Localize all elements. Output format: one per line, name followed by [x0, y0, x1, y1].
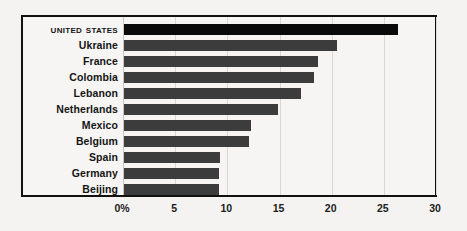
x-tick-label: 0%: [114, 202, 129, 214]
bar: [124, 24, 398, 35]
bar-row: Mexico: [23, 117, 435, 133]
bar: [124, 184, 219, 195]
x-tick-label: 25: [377, 202, 389, 214]
bar-label: Beijing: [23, 184, 124, 195]
bar: [124, 40, 337, 51]
bar-row: Lebanon: [23, 85, 435, 101]
x-tick-label: 30: [429, 202, 441, 214]
bar-chart-figure: United StatesUkraineFranceColombiaLebano…: [0, 0, 467, 231]
bar: [124, 168, 219, 179]
bar-row: Belgium: [23, 133, 435, 149]
bar-label: Spain: [23, 152, 124, 163]
bar: [124, 88, 301, 99]
bar-row: Ukraine: [23, 37, 435, 53]
bar: [124, 136, 249, 147]
bar: [124, 152, 220, 163]
bar-track: [124, 133, 435, 149]
bar-label: United States: [23, 24, 124, 35]
bar-label: Ukraine: [23, 40, 124, 51]
bar-track: [124, 53, 435, 69]
gridline: [436, 17, 437, 195]
bar-label: Belgium: [23, 136, 124, 147]
x-tick-label: 10: [220, 202, 232, 214]
bar-label: Lebanon: [23, 88, 124, 99]
plot-frame: United StatesUkraineFranceColombiaLebano…: [21, 15, 437, 197]
x-tick-label: 20: [325, 202, 337, 214]
bar-track: [124, 165, 435, 181]
bar-row: Spain: [23, 149, 435, 165]
x-tick-label: 5: [171, 202, 177, 214]
bar-label: Mexico: [23, 120, 124, 131]
bar-track: [124, 37, 435, 53]
bar-rows: United StatesUkraineFranceColombiaLebano…: [23, 21, 435, 197]
bar-track: [124, 181, 435, 197]
plot-area: United StatesUkraineFranceColombiaLebano…: [23, 17, 435, 195]
bar-row: Germany: [23, 165, 435, 181]
x-axis: 0%51015202530: [21, 199, 437, 225]
bar-track: [124, 101, 435, 117]
bar-label: Netherlands: [23, 104, 124, 115]
bar: [124, 72, 314, 83]
bar-row: France: [23, 53, 435, 69]
bar: [124, 56, 318, 67]
bar-label: Colombia: [23, 72, 124, 83]
bar-row: Beijing: [23, 181, 435, 197]
bar-row: Colombia: [23, 69, 435, 85]
bar: [124, 120, 251, 131]
bar-label: France: [23, 56, 124, 67]
bar-track: [124, 117, 435, 133]
bar-track: [124, 85, 435, 101]
bar-row: United States: [23, 21, 435, 37]
bar-label: Germany: [23, 168, 124, 179]
bar-track: [124, 149, 435, 165]
bar-track: [124, 21, 435, 37]
bar-track: [124, 69, 435, 85]
x-tick-label: 15: [273, 202, 285, 214]
bar: [124, 104, 278, 115]
bar-row: Netherlands: [23, 101, 435, 117]
